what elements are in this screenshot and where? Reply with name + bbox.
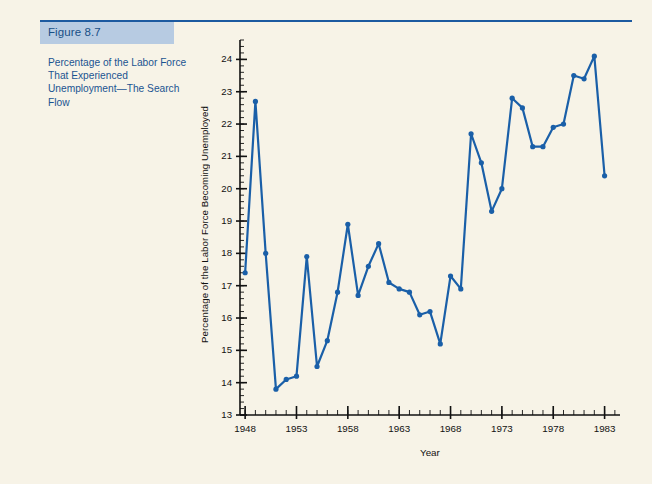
y-tick-label: 17 [214,280,232,291]
data-point [397,286,402,291]
data-point [243,270,248,275]
data-point [417,312,422,317]
x-tick-label: 1953 [276,423,316,434]
data-point [314,364,319,369]
y-tick-label: 24 [214,53,232,64]
data-point [458,286,463,291]
data-point [325,338,330,343]
data-point [345,222,350,227]
data-point [499,186,504,191]
data-point [520,105,525,110]
data-point [263,251,268,256]
line-chart: Percentage of the Labor Force Becoming U… [0,0,652,484]
plot-area [0,0,652,484]
data-point [376,241,381,246]
data-point [540,144,545,149]
data-point [356,293,361,298]
x-axis-title: Year [420,447,440,458]
data-point [386,280,391,285]
y-tick-label: 14 [214,377,232,388]
y-tick-label: 18 [214,247,232,258]
data-point [489,209,494,214]
data-point [510,96,515,101]
y-tick-label: 19 [214,215,232,226]
data-point [479,160,484,165]
y-tick-label: 20 [214,183,232,194]
data-point [571,73,576,78]
x-tick-label: 1958 [328,423,368,434]
y-tick-label: 23 [214,86,232,97]
data-point [335,290,340,295]
data-line [245,56,604,389]
data-point [438,341,443,346]
x-tick-label: 1948 [225,423,265,434]
x-tick-label: 1973 [482,423,522,434]
y-tick-label: 16 [214,312,232,323]
x-tick-label: 1983 [585,423,625,434]
y-axis-title: Percentage of the Labor Force Becoming U… [196,60,212,390]
x-tick-label: 1978 [533,423,573,434]
y-tick-label: 13 [214,409,232,420]
y-tick-label: 15 [214,344,232,355]
data-point [530,144,535,149]
data-point [273,387,278,392]
y-tick-label: 21 [214,150,232,161]
x-tick-label: 1963 [379,423,419,434]
data-point [284,377,289,382]
data-point [253,99,258,104]
data-point [427,309,432,314]
data-point [551,125,556,130]
y-tick-label: 22 [214,118,232,129]
data-point [448,273,453,278]
data-point [581,76,586,81]
figure-page: Figure 8.7 Percentage of the Labor Force… [0,0,652,484]
data-point [592,54,597,59]
data-point [366,264,371,269]
data-point [304,254,309,259]
data-point [602,173,607,178]
data-point [294,374,299,379]
data-point [468,131,473,136]
data-point [561,121,566,126]
data-point [407,290,412,295]
x-tick-label: 1968 [431,423,471,434]
